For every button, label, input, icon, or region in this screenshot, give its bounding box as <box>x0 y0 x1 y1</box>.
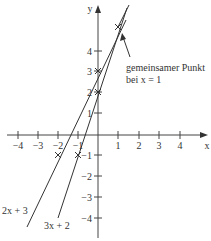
x-tick-label: −4 <box>13 140 24 151</box>
x-tick-label: 1 <box>116 140 121 151</box>
chart: −4 −3 −2 −1 1 2 3 4 x 4 3 2 1 −1 −2 −3 −… <box>0 0 211 241</box>
annotation-line1: gemeinsamer Punkt <box>126 62 205 73</box>
line-3x-plus-2 <box>58 8 127 218</box>
annotation-arrow <box>123 37 130 57</box>
line-2x-plus-3 <box>27 20 126 227</box>
y-axis-arrow-icon <box>95 5 101 13</box>
y-tick-label: −4 <box>81 213 92 224</box>
line-2x-plus-3-top <box>118 5 129 27</box>
y-tick-label: 4 <box>87 46 92 57</box>
x-axis-arrow-icon <box>200 132 208 138</box>
label-3x-plus-2: 3x + 2 <box>44 220 70 231</box>
x-tick-label: −2 <box>53 140 64 151</box>
y-tick-label: −3 <box>81 192 92 203</box>
y-tick-label: −2 <box>81 171 92 182</box>
y-tick-label: 3 <box>87 66 92 77</box>
y-tick-label: −1 <box>81 150 92 161</box>
cross-icon <box>115 24 121 30</box>
x-tick-label: 2 <box>137 140 142 151</box>
cross-icon <box>55 152 61 158</box>
x-axis-label: x <box>205 140 210 151</box>
x-tick-label: 3 <box>157 140 162 151</box>
y-axis-label: y <box>88 3 93 14</box>
annotation-line2: bei x = 1 <box>126 74 161 85</box>
label-2x-plus-3: 2x + 3 <box>2 205 28 216</box>
arrowhead-icon <box>120 33 126 41</box>
x-tick-label: −3 <box>33 140 44 151</box>
x-tick-label: 4 <box>178 140 183 151</box>
